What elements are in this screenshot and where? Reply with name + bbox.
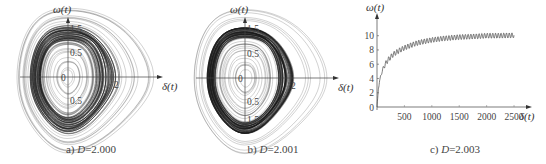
y-tick-0: 0 <box>369 103 374 113</box>
y-tick-8: 8 <box>369 45 374 55</box>
tick-y-1.5: 1.5 <box>70 24 82 34</box>
panel-c-time-series: ω(t)δ(t)02468105001000150020002500 c) D=… <box>364 0 546 164</box>
x-axis-label: δ(t) <box>338 81 354 94</box>
x-tick-1000: 1000 <box>422 112 441 122</box>
phase-plot-b: ω(t)δ(t)00.51.50.521.5 <box>182 0 364 140</box>
y-axis-label: ω(t) <box>366 1 384 14</box>
omega-trajectory <box>377 33 514 107</box>
x-axis-arrow-icon <box>333 76 339 80</box>
orbits <box>194 10 327 154</box>
y-tick-10: 10 <box>365 31 375 41</box>
x-axis-label: δ(t) <box>162 80 178 93</box>
x-axis-arrow-icon <box>157 75 163 79</box>
tick-origin: 0 <box>238 74 243 84</box>
tick-x-2: 2 <box>291 81 296 91</box>
caption-value: =2.001 <box>267 143 298 155</box>
panel-a-phase-portrait: ω(t)δ(t)00.51.50.52 a) D=2.000 <box>0 0 182 164</box>
caption-a: a) D=2.000 <box>0 143 182 155</box>
y-axis-arrow-icon <box>375 13 379 19</box>
tick-y-0.5: 0.5 <box>247 49 259 59</box>
caption-prefix: c) <box>430 143 441 155</box>
caption-var: D <box>77 143 85 155</box>
tick-y-neg-0.5: 0.5 <box>247 97 259 107</box>
y-tick-4: 4 <box>369 74 374 84</box>
caption-b: b) D=2.001 <box>182 143 364 155</box>
x-axis-arrow-icon <box>526 105 532 109</box>
y-axis-arrow-icon <box>243 17 247 23</box>
caption-var: D <box>441 143 449 155</box>
caption-c: c) D=2.003 <box>364 143 546 155</box>
y-axis-label: ω(t) <box>53 3 71 16</box>
tick-y-neg-1.5: 1.5 <box>247 115 259 125</box>
tick-y-1.5: 1.5 <box>247 24 259 34</box>
tick-origin: 0 <box>61 73 66 83</box>
y-tick-6: 6 <box>369 60 374 70</box>
caption-prefix: b) <box>248 143 260 155</box>
tick-y-neg-0.5: 0.5 <box>70 96 82 106</box>
panel-b-phase-portrait: ω(t)δ(t)00.51.50.521.5 b) D=2.001 <box>182 0 364 164</box>
x-tick-500: 500 <box>397 112 412 122</box>
y-tick-2: 2 <box>369 88 374 98</box>
phase-plot-a: ω(t)δ(t)00.51.50.52 <box>0 0 182 140</box>
caption-prefix: a) <box>66 143 77 155</box>
y-axis-label: ω(t) <box>230 3 248 16</box>
caption-value: =2.000 <box>85 143 116 155</box>
tick-y-0.5: 0.5 <box>70 48 82 58</box>
orbits <box>17 8 154 153</box>
axes <box>375 13 532 110</box>
line-plot-c: ω(t)δ(t)02468105001000150020002500 <box>364 0 546 140</box>
tick-x-2: 2 <box>114 80 119 90</box>
x-tick-2000: 2000 <box>477 112 496 122</box>
x-tick-1500: 1500 <box>450 112 469 122</box>
caption-value: =2.003 <box>449 143 480 155</box>
x-tick-2500: 2500 <box>505 112 524 122</box>
